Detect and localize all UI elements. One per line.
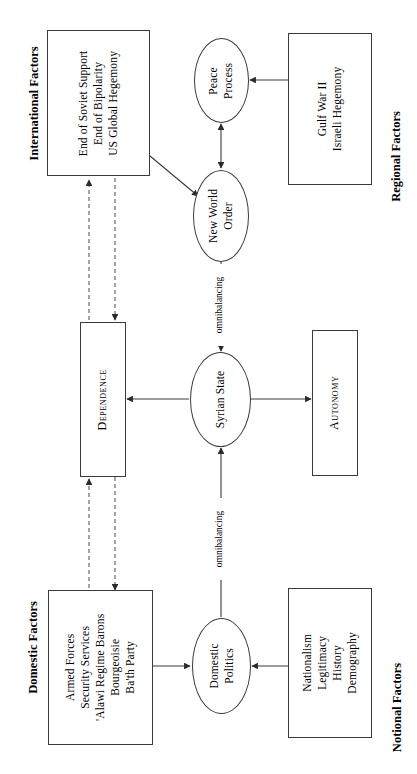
node-dependence[interactable]: Dependence (80, 322, 126, 477)
dependence-label: Dependence (95, 369, 111, 430)
group-label-domestic-factors: Domestic Factors (26, 588, 41, 708)
edge-label-omnibalancing-lower: omnibalancing (214, 498, 224, 580)
domestic-politics-text: Domestic Politics (207, 643, 237, 688)
group-label-international-factors: International Factors (27, 44, 42, 164)
new-world-order-text: New World Order (206, 189, 236, 243)
group-label-regional-factors: Regional Factors (389, 97, 404, 217)
node-syrian-state[interactable]: Syrian State (190, 352, 251, 447)
peace-process-text: Peace Process (207, 62, 237, 98)
group-label-notional-factors: Notional Factors (390, 648, 405, 768)
regional-factors-text: Gulf War II Israeli Hegemony (315, 67, 345, 151)
node-regional-factors[interactable]: Gulf War II Israeli Hegemony (288, 33, 372, 185)
domestic-factors-text: Armed Forces Security Services 'Alawi Re… (63, 614, 138, 721)
autonomy-label: Autonomy (327, 376, 343, 430)
node-notional-factors[interactable]: Nationalism Legitimacy History Demograph… (288, 588, 372, 738)
node-new-world-order[interactable]: New World Order (193, 170, 249, 262)
notional-factors-text: Nationalism Legitimacy History Demograph… (300, 632, 360, 694)
international-factors-text: End of Soviet Support End of Bipolarity … (76, 50, 121, 156)
diagram-canvas: End of Soviet Support End of Bipolarity … (0, 0, 417, 774)
edge-international-to-new-world-order (150, 156, 198, 196)
node-peace-process[interactable]: Peace Process (194, 38, 249, 123)
node-international-factors[interactable]: End of Soviet Support End of Bipolarity … (47, 30, 150, 176)
syrian-state-label: Syrian State (213, 371, 228, 429)
node-autonomy[interactable]: Autonomy (312, 330, 358, 476)
edge-label-omnibalancing-upper: omnibalancing (214, 264, 224, 346)
node-domestic-politics[interactable]: Domestic Politics (192, 618, 251, 714)
node-domestic-factors[interactable]: Armed Forces Security Services 'Alawi Re… (48, 590, 153, 745)
